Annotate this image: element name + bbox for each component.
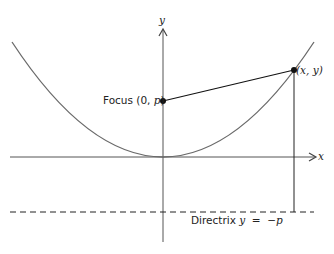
directrix-label-equation: y = −p: [239, 214, 283, 226]
focus-label-var: p: [154, 94, 161, 106]
focus-label-suffix: ): [161, 94, 165, 106]
focus-to-point-segment: [163, 70, 294, 101]
parabola-diagram: y x Focus (0, p) (x, y) Directrix y = −p: [0, 0, 334, 254]
diagram-canvas: [0, 0, 334, 254]
point-label: (x, y): [296, 64, 323, 76]
focus-label: Focus (0, p): [103, 94, 165, 106]
x-axis-label: x: [318, 150, 324, 162]
directrix-label: Directrix y = −p: [191, 214, 283, 226]
focus-label-prefix: Focus (0,: [103, 94, 154, 106]
directrix-label-prefix: Directrix: [191, 214, 239, 226]
y-axis-label: y: [159, 14, 165, 26]
